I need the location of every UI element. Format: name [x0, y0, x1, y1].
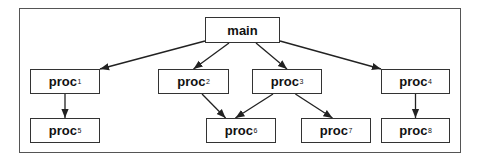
edge-main-to-proc1 [100, 41, 205, 69]
node-subscript: 3 [299, 78, 303, 85]
node-label: proc [271, 74, 299, 89]
node-label: proc [399, 123, 427, 138]
edge-proc2-to-proc6 [202, 94, 226, 118]
node-label: main [227, 23, 257, 38]
node-subscript: 6 [253, 127, 257, 134]
node-label: proc [225, 123, 253, 138]
edge-main-to-proc2 [194, 43, 230, 69]
node-label: proc [49, 123, 77, 138]
node-subscript: 4 [428, 78, 432, 85]
edge-proc3-to-proc7 [295, 94, 332, 118]
call-graph-diagram: mainproc1proc2proc3proc4proc5proc6proc7p… [0, 0, 480, 164]
node-proc1: proc1 [30, 69, 100, 94]
edge-main-to-proc4 [280, 41, 381, 69]
node-proc2: proc2 [158, 69, 229, 94]
node-subscript: 1 [77, 78, 81, 85]
node-subscript: 2 [206, 78, 210, 85]
node-label: proc [49, 74, 77, 89]
node-proc8: proc8 [381, 118, 450, 143]
edge-proc3-to-proc6 [235, 94, 273, 118]
node-proc5: proc5 [30, 118, 100, 143]
node-label: proc [320, 123, 348, 138]
node-subscript: 5 [77, 127, 81, 134]
node-proc3: proc3 [252, 69, 322, 94]
edge-main-to-proc3 [256, 43, 287, 69]
node-label: proc [399, 74, 427, 89]
node-subscript: 7 [348, 127, 352, 134]
node-subscript: 8 [428, 127, 432, 134]
node-label: proc [177, 74, 205, 89]
node-main: main [205, 17, 280, 43]
node-proc6: proc6 [206, 118, 276, 143]
node-proc4: proc4 [381, 69, 450, 94]
node-proc7: proc7 [301, 118, 371, 143]
